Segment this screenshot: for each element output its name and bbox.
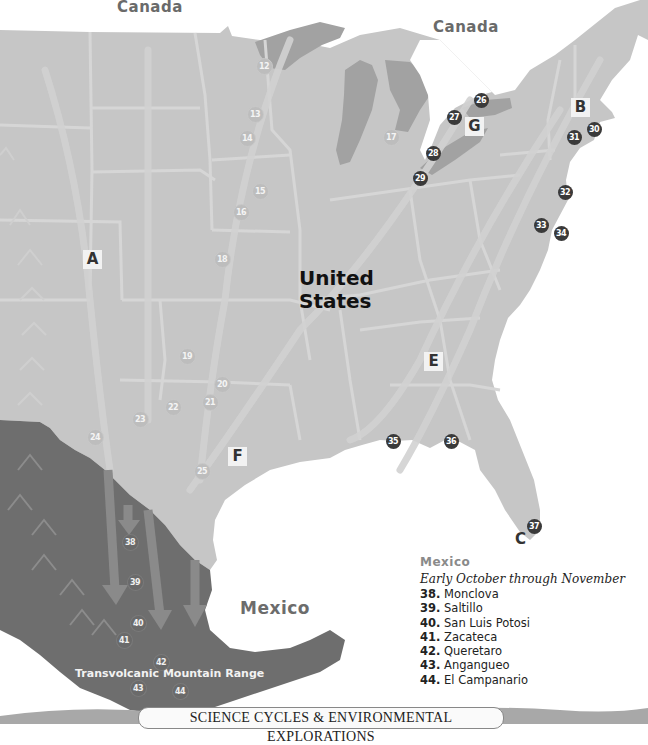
site-marker-18: 18 — [214, 251, 231, 268]
legend: Mexico Early October through November 38… — [420, 555, 648, 687]
legend-item-number: 39. — [420, 601, 440, 615]
legend-item-name: Queretaro — [440, 644, 502, 658]
site-marker-16: 16 — [233, 204, 250, 221]
legend-item-number: 42. — [420, 644, 440, 658]
site-marker-12: 12 — [256, 58, 273, 75]
site-marker-15: 15 — [252, 183, 269, 200]
legend-item: 42. Queretaro — [420, 644, 648, 658]
mexico-label: Mexico — [240, 598, 310, 618]
site-marker-36: 36 — [444, 434, 459, 449]
site-marker-24: 24 — [87, 429, 104, 446]
region-label-c: C — [511, 530, 530, 549]
site-marker-13: 13 — [247, 106, 264, 123]
site-marker-33: 33 — [534, 218, 549, 233]
site-marker-41: 41 — [117, 633, 132, 648]
legend-item-number: 38. — [420, 587, 440, 601]
united-states-label-line1: United — [299, 267, 374, 290]
site-marker-39: 39 — [128, 575, 143, 590]
legend-item-name: Zacateca — [440, 630, 497, 644]
legend-item: 40. San Luis Potosi — [420, 616, 648, 630]
united-states-label: United States — [299, 267, 374, 313]
region-label-b: B — [571, 98, 590, 117]
legend-item-number: 41. — [420, 630, 440, 644]
region-label-f: F — [228, 447, 247, 466]
site-marker-28: 28 — [426, 146, 441, 161]
legend-item: 41. Zacateca — [420, 630, 648, 644]
site-marker-19: 19 — [179, 348, 196, 365]
legend-item-number: 40. — [420, 616, 440, 630]
legend-item-name: San Luis Potosi — [440, 616, 530, 630]
legend-item-name: Saltillo — [440, 601, 482, 615]
site-marker-14: 14 — [239, 130, 256, 147]
canada-label-west: Canada — [117, 0, 183, 16]
site-marker-43: 43 — [131, 681, 146, 696]
site-marker-37: 37 — [527, 519, 542, 534]
site-marker-23: 23 — [132, 411, 149, 428]
site-marker-29: 29 — [413, 171, 428, 186]
site-marker-35: 35 — [386, 434, 401, 449]
site-marker-26: 26 — [474, 93, 489, 108]
site-marker-25: 25 — [194, 463, 211, 480]
site-marker-42: 42 — [154, 655, 169, 670]
legend-item: 39. Saltillo — [420, 601, 648, 615]
legend-item-name: Monclova — [440, 587, 498, 601]
site-marker-17: 17 — [383, 129, 400, 146]
site-marker-30: 30 — [587, 122, 602, 137]
site-marker-40: 40 — [131, 616, 146, 631]
legend-item-name: Angangueo — [440, 658, 509, 672]
mountain-range-label: Transvolcanic Mountain Range — [75, 667, 264, 680]
site-marker-38: 38 — [123, 535, 138, 550]
legend-item: 38. Monclova — [420, 587, 648, 601]
united-states-label-line2: States — [299, 290, 374, 313]
region-label-g: G — [465, 117, 484, 136]
legend-list: 38. Monclova39. Saltillo40. San Luis Pot… — [420, 587, 648, 687]
site-marker-34: 34 — [554, 226, 569, 241]
site-marker-21: 21 — [202, 394, 219, 411]
legend-item: 43. Angangueo — [420, 658, 648, 672]
site-marker-31: 31 — [567, 130, 582, 145]
site-marker-27: 27 — [447, 110, 462, 125]
site-marker-22: 22 — [165, 399, 182, 416]
legend-item-number: 43. — [420, 658, 440, 672]
region-label-a: A — [83, 250, 102, 269]
publisher-banner: SCIENCE CYCLES & ENVIRONMENTAL EXPLORATI… — [138, 707, 504, 729]
region-label-e: E — [424, 352, 443, 371]
site-marker-20: 20 — [214, 376, 231, 393]
site-marker-32: 32 — [558, 185, 573, 200]
legend-item: 44. El Campanario — [420, 673, 648, 687]
legend-item-number: 44. — [420, 673, 440, 687]
site-marker-44: 44 — [173, 684, 188, 699]
legend-subtitle: Early October through November — [420, 572, 648, 586]
legend-item-name: El Campanario — [440, 673, 528, 687]
canada-label-east: Canada — [433, 18, 499, 36]
legend-title: Mexico — [420, 555, 648, 569]
